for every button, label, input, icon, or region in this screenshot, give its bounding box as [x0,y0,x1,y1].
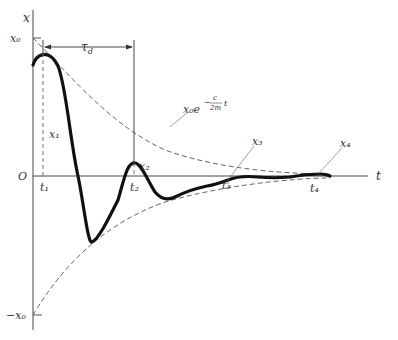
origin-label: O [18,170,27,183]
x0-label: x₀ [10,32,21,45]
neg-x0-label: −x₀ [6,309,26,322]
envelope-exp-numerator: c [213,94,217,102]
response-curve [33,54,330,242]
x3-label: x₃ [252,135,263,148]
t4-label: t₄ [310,182,319,195]
x4-leader [318,148,342,174]
t3-label: t₃ [222,179,231,192]
y-axis-label: x [23,11,30,25]
envelope-exp-denominator: 2m [209,104,221,112]
t2-label: t₂ [130,181,139,194]
envelope-exp-t: t [224,99,228,108]
damped-vibration-diagram: x t O x₀ −x₀ τd t₁ t₂ t₃ t₄ x₁ x₂ x₃ x₄ … [0,0,398,340]
x4-label: x₄ [340,137,351,150]
envelope-equation-base: x₀e [183,103,201,116]
lower-envelope [33,178,330,315]
upper-envelope [33,38,330,174]
t1-label: t₁ [40,181,49,194]
x1-label: x₁ [49,128,60,141]
t-axis-label: t [376,169,381,183]
tau-d-arrow-left [44,45,51,50]
tau-d-arrow-right [126,45,133,50]
x3-leader [228,146,254,180]
tau-d-label: τd [81,40,93,56]
x2-label: x₂ [139,160,150,173]
